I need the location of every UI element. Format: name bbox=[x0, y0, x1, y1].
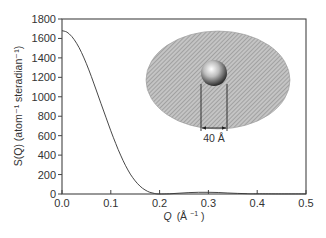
scattering-chart: 40 Å 0.00.10.20.30.40.502004006008001000… bbox=[0, 0, 326, 238]
x-tick-label: 0.0 bbox=[54, 197, 69, 209]
x-tick-label: 0.2 bbox=[152, 197, 167, 209]
x-axis-close: ) bbox=[201, 210, 205, 222]
y-tick-label: 200 bbox=[38, 169, 56, 181]
dimension-label: 40 Å bbox=[203, 132, 225, 144]
y-tick-label: 400 bbox=[38, 149, 56, 161]
x-tick-label: 0.5 bbox=[298, 197, 313, 209]
y-tick-label: 1600 bbox=[32, 32, 56, 44]
y-tick-label: 1200 bbox=[32, 71, 56, 83]
x-axis-label: Q (Å −1 ) bbox=[164, 206, 205, 222]
y-tick-label: 1800 bbox=[32, 13, 56, 25]
y-tick-label: 600 bbox=[38, 130, 56, 142]
sphere bbox=[201, 60, 227, 86]
x-tick-label: 0.4 bbox=[250, 197, 265, 209]
x-axis-unit: (Å bbox=[177, 210, 188, 222]
chart-container: 40 Å 0.00.10.20.30.40.502004006008001000… bbox=[0, 0, 326, 238]
x-axis-symbol: Q bbox=[164, 210, 172, 222]
y-tick-label: 0 bbox=[50, 188, 56, 200]
y-tick-label: 1000 bbox=[32, 91, 56, 103]
x-tick-label: 0.1 bbox=[103, 197, 118, 209]
y-tick-label: 1400 bbox=[32, 52, 56, 64]
x-tick-label: 0.3 bbox=[201, 197, 216, 209]
y-axis-label: S(Q) (atom⁻¹ steradian⁻¹) bbox=[12, 46, 24, 167]
inset-illustration: 40 Å bbox=[146, 31, 290, 144]
y-tick-label: 800 bbox=[38, 110, 56, 122]
x-axis-exp: −1 bbox=[190, 210, 198, 217]
